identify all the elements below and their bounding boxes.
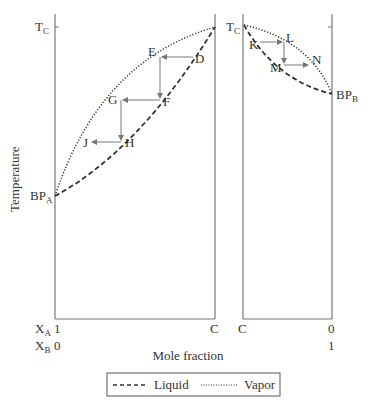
bp-a-label: BPA [30,188,53,205]
liquid-curve-left [55,27,215,196]
point-k: K [249,37,259,52]
left-x-tick-1: 1 [54,321,61,336]
tc-label-left: TC [35,19,49,36]
right-xb-tick-1: 1 [328,338,335,353]
legend-vapor-label: Vapor [244,377,276,392]
point-l: L [286,30,294,45]
x-axis-label: Mole fraction [152,348,224,363]
left-panel: D E F G H J TC BPA [30,14,215,319]
right-x-tick-c: C [238,321,247,336]
right-panel: K L M N TC BPB [226,14,358,319]
xa-label: XA [35,321,51,338]
point-m: M [270,60,282,75]
point-f: F [163,94,170,109]
tc-label-right: TC [226,19,240,36]
legend-liquid-label: Liquid [154,377,189,392]
left-xb-tick-0: 0 [54,338,61,353]
right-x-tick-0: 0 [328,321,335,336]
point-e: E [148,44,156,59]
xb-label: XB [35,338,50,355]
point-h: H [125,135,134,150]
legend: Liquid Vapor [107,373,280,396]
point-d: D [195,51,204,66]
point-g: G [108,92,117,107]
bp-b-label: BPB [336,87,358,104]
point-n: N [312,52,322,67]
point-j: J [83,135,88,150]
vapor-curve-left [55,27,215,196]
y-axis-label: Temperature [7,146,22,212]
left-x-tick-c: C [210,321,219,336]
phase-diagram: D E F G H J TC BPA K L M N TC BPB Temper… [0,0,370,411]
